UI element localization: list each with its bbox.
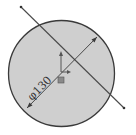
origin-point-icon — [58, 77, 64, 83]
line-endpoint-end[interactable] — [123, 107, 126, 110]
line-endpoint-start[interactable] — [20, 6, 23, 9]
sketch-canvas[interactable]: φ130 — [0, 0, 136, 135]
